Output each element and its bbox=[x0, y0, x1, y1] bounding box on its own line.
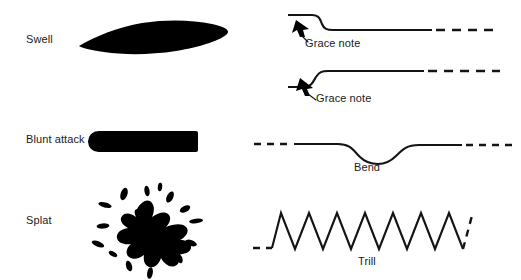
label-grace-note-up: Grace note bbox=[316, 93, 371, 104]
arrow-icon bbox=[296, 78, 313, 96]
splat-glyph bbox=[91, 183, 203, 280]
figure-canvas: Swell Blunt attack Splat Grace note Grac… bbox=[0, 0, 521, 280]
label-grace-note-down: Grace note bbox=[305, 38, 360, 49]
label-blunt-attack: Blunt attack bbox=[26, 134, 85, 145]
label-splat: Splat bbox=[26, 215, 52, 226]
label-bend: Bend bbox=[354, 162, 380, 173]
trill-glyph bbox=[253, 212, 473, 249]
bend-glyph bbox=[254, 144, 514, 164]
blunt-attack-glyph bbox=[88, 131, 198, 152]
label-swell: Swell bbox=[26, 34, 53, 45]
label-trill: Trill bbox=[358, 256, 376, 267]
arrow-icon bbox=[292, 20, 309, 37]
swell-glyph bbox=[79, 20, 228, 54]
